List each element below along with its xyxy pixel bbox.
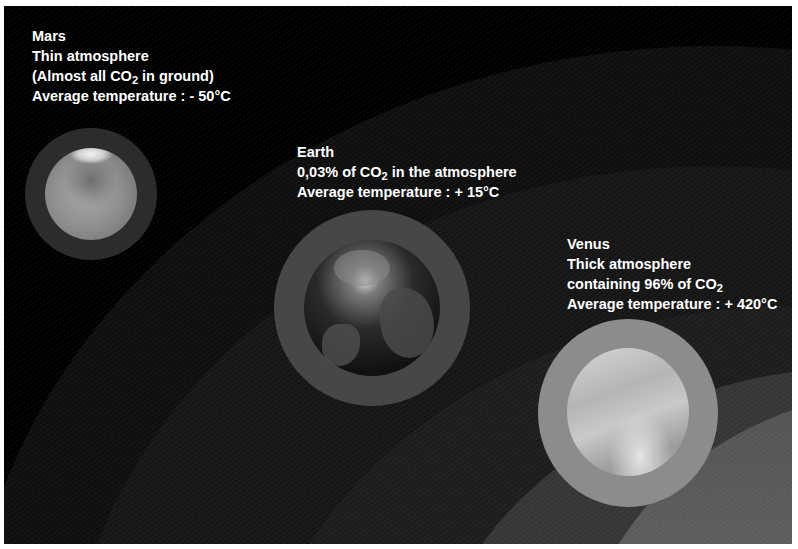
venus-planet-image — [567, 348, 689, 476]
planets-co2-poster: Mars Thin atmosphere (Almost all CO2 in … — [4, 6, 792, 544]
venus-label: Venus Thick atmosphere containing 96% of… — [567, 234, 777, 314]
venus-title: Venus — [567, 234, 777, 254]
mars-co2-note: (Almost all CO2 in ground) — [32, 66, 231, 86]
earth-co2-note: 0,03% of CO2 in the atmosphere — [297, 162, 517, 182]
earth-title: Earth — [297, 142, 517, 162]
mars-label: Mars Thin atmosphere (Almost all CO2 in … — [32, 26, 231, 106]
mars-temperature: Average temperature : - 50°C — [32, 86, 231, 106]
mars-title: Mars — [32, 26, 231, 46]
venus-temperature: Average temperature : + 420°C — [567, 294, 777, 314]
earth-label: Earth 0,03% of CO2 in the atmosphere Ave… — [297, 142, 517, 202]
mars-planet-image — [45, 148, 137, 240]
venus-co2-note: containing 96% of CO2 — [567, 274, 777, 294]
mars-atmosphere: Thin atmosphere — [32, 46, 231, 66]
venus-atmosphere: Thick atmosphere — [567, 254, 777, 274]
earth-continent-north — [334, 250, 390, 286]
earth-temperature: Average temperature : + 15°C — [297, 182, 517, 202]
